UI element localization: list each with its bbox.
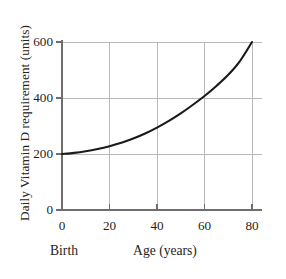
y-tick-label: 0 bbox=[7, 202, 53, 218]
x-tick-label: 80 bbox=[232, 218, 272, 234]
x-tick-label: 0 bbox=[42, 218, 82, 234]
birth-caption: Birth bbox=[36, 243, 92, 259]
x-axis-title: Age (years) bbox=[110, 243, 220, 259]
vitamin-d-requirement-chart: Daily Vitamin D requirement (units) 0200… bbox=[0, 0, 286, 279]
x-tick-label: 20 bbox=[90, 218, 130, 234]
x-tick-label: 60 bbox=[185, 218, 225, 234]
y-tick-label: 400 bbox=[7, 90, 53, 106]
y-tick-label: 200 bbox=[7, 146, 53, 162]
x-tick-label: 40 bbox=[137, 218, 177, 234]
tick-marks-group bbox=[56, 42, 252, 210]
y-tick-label: 600 bbox=[7, 34, 53, 50]
